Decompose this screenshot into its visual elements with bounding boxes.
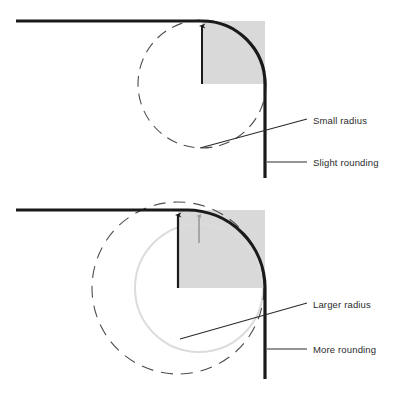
larger-radius-annotation: Larger radius: [180, 299, 371, 339]
slight-rounding-annotation: Slight rounding: [267, 157, 379, 168]
shaded-quadrant-large: [178, 210, 265, 288]
small-radius-leader-line: [200, 119, 307, 148]
small-radius-annotation: Small radius: [200, 115, 367, 148]
small-radius-label: Small radius: [313, 115, 367, 126]
corner-rounding-figure: Small radius Slight rounding Larger radi…: [0, 0, 403, 397]
small-radius-panel: [16, 20, 266, 178]
slight-rounding-label: Slight rounding: [313, 157, 379, 168]
more-rounding-label: More rounding: [313, 344, 376, 355]
larger-radius-panel: [16, 202, 265, 379]
more-rounding-annotation: More rounding: [267, 344, 376, 355]
figure-canvas: Small radius Slight rounding Larger radi…: [0, 0, 403, 397]
larger-radius-label: Larger radius: [313, 299, 371, 310]
